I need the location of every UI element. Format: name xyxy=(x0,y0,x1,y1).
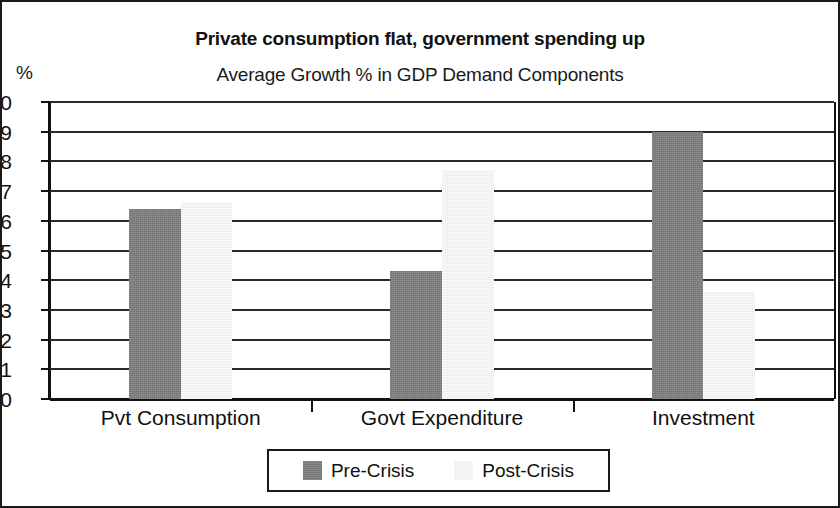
bar-post-crisis-investment xyxy=(703,292,755,399)
chart-figure: Private consumption flat, government spe… xyxy=(0,0,840,508)
category-label-investment: Investment xyxy=(573,406,834,430)
y-axis-tick-mark xyxy=(41,368,50,370)
y-axis-tick-label: 1 xyxy=(0,359,12,380)
legend-label: Post-Crisis xyxy=(482,460,574,482)
bar-post-crisis-govt-expenditure xyxy=(442,170,494,399)
bar-post-crisis-pvt-consumption xyxy=(181,202,233,400)
y-axis-tick-label: 3 xyxy=(0,299,12,320)
y-axis-tick-mark xyxy=(41,220,50,222)
chart-subtitle: Average Growth % in GDP Demand Component… xyxy=(2,64,838,86)
y-axis-tick-label: 8 xyxy=(0,151,12,172)
y-axis-tick-label: 9 xyxy=(0,121,12,142)
y-axis-tick-label: 0 xyxy=(0,389,12,410)
y-axis-tick-label: 7 xyxy=(0,181,12,202)
y-axis-tick-mark xyxy=(41,250,50,252)
gridline xyxy=(50,160,834,162)
y-axis-tick-mark xyxy=(41,339,50,341)
y-axis-tick-mark xyxy=(41,101,50,103)
legend-label: Pre-Crisis xyxy=(331,460,414,482)
bar-pre-crisis-govt-expenditure xyxy=(390,271,442,399)
y-axis-tick-label: 5 xyxy=(0,240,12,261)
y-axis-unit-label: % xyxy=(16,62,33,84)
legend-entry-pre-crisis: Pre-Crisis xyxy=(303,460,414,482)
legend-entry-post-crisis: Post-Crisis xyxy=(454,460,574,482)
category-label-pvt-consumption: Pvt Consumption xyxy=(50,406,311,430)
gridline xyxy=(50,131,834,133)
y-axis-tick-label: 4 xyxy=(0,270,12,291)
y-axis-tick-mark xyxy=(41,160,50,162)
y-axis-tick-mark xyxy=(41,131,50,133)
chart-legend: Pre-CrisisPost-Crisis xyxy=(267,449,610,492)
y-axis-tick-mark xyxy=(41,309,50,311)
legend-swatch-icon xyxy=(303,461,322,480)
bar-pre-crisis-pvt-consumption xyxy=(129,209,181,399)
plot-right-border xyxy=(834,102,836,399)
plot-area: 012345678910 xyxy=(50,102,834,399)
y-axis-tick-mark xyxy=(41,279,50,281)
y-axis-tick-label: 6 xyxy=(0,210,12,231)
y-axis-tick-mark xyxy=(41,190,50,192)
gridline xyxy=(50,101,834,103)
category-label-govt-expenditure: Govt Expenditure xyxy=(311,406,572,430)
y-axis-tick-label: 2 xyxy=(0,329,12,350)
y-axis-tick-label: 10 xyxy=(0,92,12,113)
y-axis-tick-mark xyxy=(41,398,50,400)
chart-title: Private consumption flat, government spe… xyxy=(2,28,838,50)
legend-swatch-icon xyxy=(454,461,473,480)
bar-pre-crisis-investment xyxy=(652,132,704,399)
